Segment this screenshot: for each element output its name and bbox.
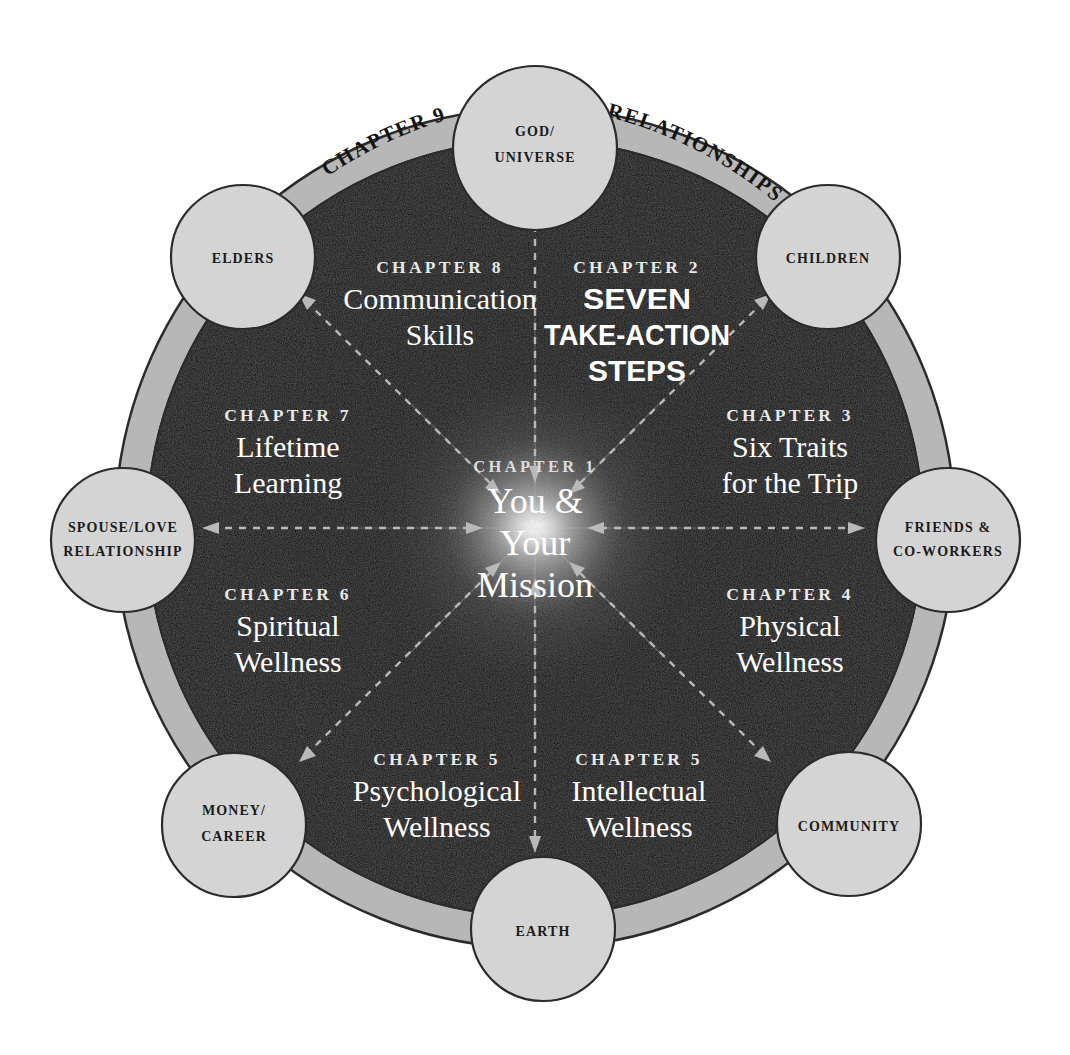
chapter-3-title-line-1: Six Traits [732, 430, 848, 463]
node-friends-co-workers[interactable]: FRIENDS & CO-WORKERS [876, 468, 1020, 612]
node-god-universe[interactable]: GOD/ UNIVERSE [453, 66, 617, 230]
chapter-7-title-line-2: Learning [234, 466, 342, 499]
chapter-2-title-line-1: SEVEN [583, 282, 691, 315]
chapter-8-title-line-1: Communication [343, 282, 536, 315]
node-god-universe-line-1: GOD/ [515, 124, 555, 139]
chapter-7-title-line-1: Lifetime [236, 430, 339, 463]
node-money-career-line-1: MONEY/ [202, 803, 266, 818]
diagram-canvas: CHAPTER 9 RELATIONSHIPS CHAPTER 8 Commun… [0, 0, 1070, 1055]
node-elders[interactable]: ELDERS [171, 185, 315, 329]
node-money-career[interactable]: MONEY/ CAREER [162, 753, 306, 897]
segment-chapter-4: CHAPTER 4 Physical Wellness [726, 584, 854, 678]
node-friends-co-workers-line-1: FRIENDS & [905, 520, 992, 535]
chapter-8-label: CHAPTER 8 [376, 257, 504, 277]
node-money-career-line-2: CAREER [201, 829, 267, 844]
node-spouse-love-line-2: RELATIONSHIP [63, 544, 183, 559]
node-earth-label: EARTH [516, 924, 571, 939]
chapter-2-label: CHAPTER 2 [573, 257, 701, 277]
center-chapter-label: CHAPTER 1 [473, 457, 597, 476]
node-children-label: CHILDREN [786, 251, 870, 266]
chapter-4-title-line-2: Wellness [736, 645, 844, 678]
node-friends-co-workers-line-2: CO-WORKERS [893, 544, 1003, 559]
chapter-6-title-line-2: Wellness [234, 645, 342, 678]
chapter-4-label: CHAPTER 4 [726, 584, 854, 604]
chapter-4-title-line-1: Physical [739, 609, 841, 642]
segment-chapter-3: CHAPTER 3 Six Traits for the Trip [722, 405, 859, 499]
node-spouse-love[interactable]: SPOUSE/LOVE RELATIONSHIP [51, 468, 195, 612]
node-community[interactable]: COMMUNITY [777, 752, 921, 896]
center-title-line-1: You & [487, 481, 582, 521]
chapter-6-title-line-1: Spiritual [236, 609, 339, 642]
segment-chapter-5-intellectual: CHAPTER 5 Intellectual Wellness [572, 749, 707, 843]
life-mission-wheel: CHAPTER 9 RELATIONSHIPS CHAPTER 8 Commun… [0, 0, 1070, 1055]
segment-chapter-7: CHAPTER 7 Lifetime Learning [224, 405, 352, 499]
chapter-5-psychological-title-line-2: Wellness [383, 810, 491, 843]
node-earth[interactable]: EARTH [471, 857, 615, 1001]
chapter-5-intellectual-label: CHAPTER 5 [575, 749, 703, 769]
chapter-3-title-line-2: for the Trip [722, 466, 859, 499]
node-elders-label: ELDERS [212, 251, 275, 266]
node-community-label: COMMUNITY [798, 819, 900, 834]
chapter-2-title-line-2: TAKE-ACTION [544, 318, 730, 351]
chapter-6-label: CHAPTER 6 [224, 584, 352, 604]
chapter-5-intellectual-title-line-1: Intellectual [572, 774, 707, 807]
chapter-3-label: CHAPTER 3 [726, 405, 854, 425]
center-title-line-2: Your [500, 523, 570, 563]
segment-chapter-6: CHAPTER 6 Spiritual Wellness [224, 584, 352, 678]
chapter-5-intellectual-title-line-2: Wellness [585, 810, 693, 843]
node-god-universe-line-2: UNIVERSE [494, 150, 575, 165]
center-title-line-3: Mission [477, 565, 593, 605]
node-children[interactable]: CHILDREN [756, 185, 900, 329]
chapter-2-title-line-3: STEPS [588, 354, 686, 387]
chapter-7-label: CHAPTER 7 [224, 405, 352, 425]
chapter-5-psychological-title-line-1: Psychological [353, 774, 521, 807]
chapter-5-psychological-label: CHAPTER 5 [373, 749, 501, 769]
node-spouse-love-line-1: SPOUSE/LOVE [68, 520, 178, 535]
chapter-8-title-line-2: Skills [406, 318, 474, 351]
